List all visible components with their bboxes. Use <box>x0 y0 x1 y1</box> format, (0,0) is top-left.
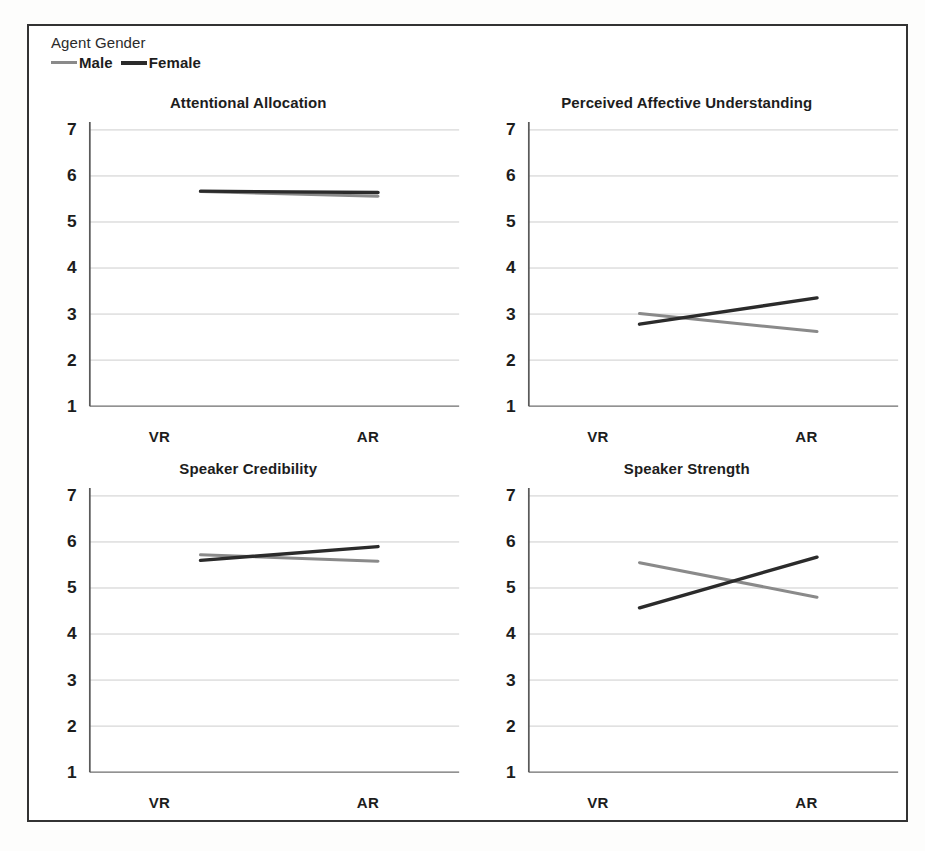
y-tick-label: 3 <box>506 671 516 689</box>
y-tick-label: 5 <box>506 213 516 231</box>
panel-title: Speaker Credibility <box>29 460 468 477</box>
y-tick-label: 1 <box>506 397 516 415</box>
y-tick-label: 5 <box>67 213 77 231</box>
y-tick-label: 4 <box>506 259 516 277</box>
x-tick-label: AR <box>795 794 817 811</box>
page-background: Agent Gender Male Female Attentional All… <box>0 0 925 851</box>
x-tick-label: AR <box>357 794 379 811</box>
line-swatch-icon <box>51 61 77 64</box>
series-line-female <box>201 191 378 192</box>
panel-speaker-strength: Speaker Strength 1234567 VR AR <box>468 454 907 820</box>
x-tick-label: AR <box>357 428 379 445</box>
x-tick-labels: VR AR <box>468 794 903 816</box>
y-tick-label: 3 <box>67 305 77 323</box>
y-tick-label: 1 <box>67 397 77 415</box>
panel-title: Perceived Affective Understanding <box>468 94 907 111</box>
y-tick-label: 4 <box>67 259 77 277</box>
y-tick-label: 4 <box>506 625 516 643</box>
x-tick-labels: VR AR <box>29 428 464 450</box>
series-line-male <box>639 314 816 332</box>
line-chart-svg: 1234567 <box>468 484 903 792</box>
line-chart-svg: 1234567 <box>29 484 464 792</box>
line-chart-svg: 1234567 <box>468 118 903 426</box>
legend-entries: Male Female <box>51 54 371 71</box>
y-tick-label: 7 <box>506 487 516 505</box>
y-tick-label: 1 <box>506 763 516 781</box>
x-tick-label: VR <box>149 794 170 811</box>
plot-area: 1234567 <box>468 484 903 792</box>
panel-title: Attentional Allocation <box>29 94 468 111</box>
legend-title: Agent Gender <box>51 34 371 51</box>
legend-entry-male[interactable]: Male <box>51 54 113 71</box>
y-tick-label: 2 <box>506 717 516 735</box>
y-tick-label: 7 <box>67 487 77 505</box>
y-tick-label: 4 <box>67 625 77 643</box>
y-tick-label: 2 <box>67 351 77 369</box>
panel-title: Speaker Strength <box>468 460 907 477</box>
y-tick-label: 2 <box>67 717 77 735</box>
legend-label-female: Female <box>149 54 201 71</box>
y-tick-label: 3 <box>67 671 77 689</box>
y-tick-label: 6 <box>67 533 77 551</box>
x-tick-labels: VR AR <box>29 794 464 816</box>
line-swatch-icon <box>121 61 147 65</box>
legend-entry-female[interactable]: Female <box>121 54 201 71</box>
y-tick-label: 6 <box>506 533 516 551</box>
plot-area: 1234567 <box>468 118 903 426</box>
y-tick-label: 5 <box>506 579 516 597</box>
x-tick-label: AR <box>795 428 817 445</box>
y-tick-label: 1 <box>67 763 77 781</box>
figure-frame: Agent Gender Male Female Attentional All… <box>27 24 908 822</box>
plot-area: 1234567 <box>29 118 464 426</box>
y-tick-label: 3 <box>506 305 516 323</box>
x-tick-label: VR <box>149 428 170 445</box>
series-line-female <box>639 298 816 324</box>
y-tick-label: 6 <box>506 167 516 185</box>
x-tick-label: VR <box>587 794 608 811</box>
x-tick-label: VR <box>587 428 608 445</box>
y-tick-label: 5 <box>67 579 77 597</box>
panel-speaker-credibility: Speaker Credibility 1234567 VR AR <box>29 454 468 820</box>
legend-label-male: Male <box>79 54 113 71</box>
y-tick-label: 6 <box>67 167 77 185</box>
y-tick-label: 2 <box>506 351 516 369</box>
series-line-male <box>639 563 816 598</box>
line-chart-svg: 1234567 <box>29 118 464 426</box>
panel-perceived-affective-understanding: Perceived Affective Understanding 123456… <box>468 88 907 454</box>
plot-area: 1234567 <box>29 484 464 792</box>
x-tick-labels: VR AR <box>468 428 903 450</box>
y-tick-label: 7 <box>506 121 516 139</box>
legend: Agent Gender Male Female <box>51 34 371 71</box>
y-tick-label: 7 <box>67 121 77 139</box>
panel-grid: Attentional Allocation 1234567 VR AR Per… <box>29 88 906 820</box>
panel-attentional-allocation: Attentional Allocation 1234567 VR AR <box>29 88 468 454</box>
series-line-female <box>639 557 816 608</box>
